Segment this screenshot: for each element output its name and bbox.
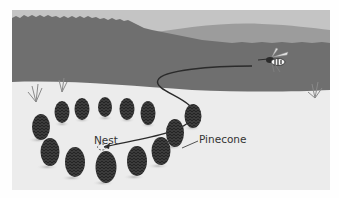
pinecone [119,98,135,123]
illustration-panel: Nest Pinecone [12,10,330,190]
pinecone [140,101,156,128]
pinecone [54,101,70,127]
nest-label: Nest [94,134,118,146]
pinecone-label: Pinecone [199,133,246,145]
scene-svg [12,10,330,190]
pinecone [74,98,90,123]
